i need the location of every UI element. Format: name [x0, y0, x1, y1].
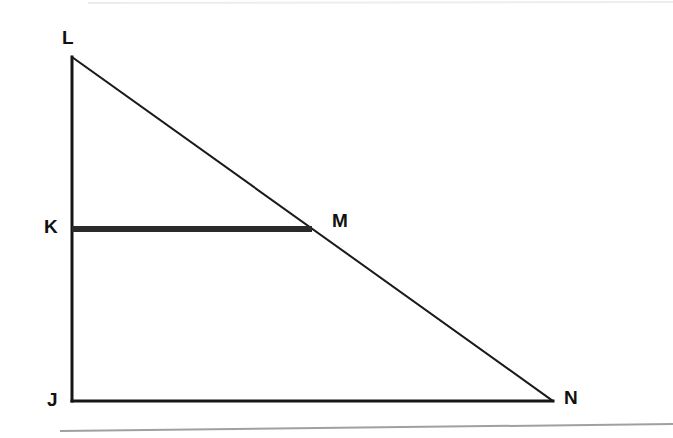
vertex-label-M: M — [332, 211, 348, 230]
scan-edge-top — [88, 2, 673, 3]
scan-edge-bottom — [60, 424, 673, 431]
vertex-label-J: J — [47, 390, 58, 409]
vertex-label-K: K — [44, 217, 58, 236]
vertex-label-L: L — [62, 28, 74, 47]
vertex-label-N: N — [564, 388, 578, 407]
geometry-figure: L K M J N — [0, 0, 673, 438]
